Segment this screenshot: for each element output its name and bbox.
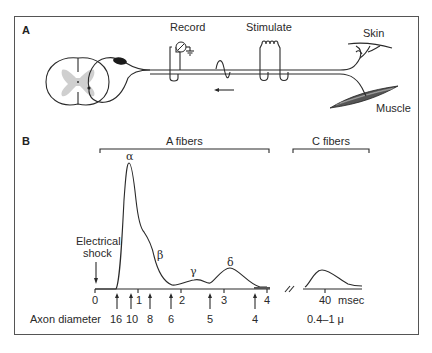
panel-a-label: A	[22, 24, 30, 36]
delta-label: δ	[227, 256, 234, 269]
tick-4: 4	[264, 294, 270, 306]
ground-icon	[186, 47, 194, 55]
c-fiber-trace	[305, 270, 362, 287]
record-electrode	[170, 42, 194, 81]
figure-frame	[15, 17, 419, 335]
nerve-conduction-figure: A Record	[0, 0, 432, 353]
action-potential-waveform-icon	[216, 61, 230, 78]
tick-40: 40	[319, 294, 331, 306]
spinal-cord-cross-section-icon	[46, 58, 109, 105]
axon-nerve-fiber	[150, 58, 364, 92]
alpha-label: α	[126, 150, 134, 163]
diameter-5: 5	[207, 313, 213, 325]
muscle-label: Muscle	[376, 102, 411, 114]
time-unit-label: msec	[338, 294, 365, 306]
record-label: Record	[170, 21, 205, 33]
shock-down-arrow-icon	[94, 262, 98, 284]
c-fibers-label: C fibers	[312, 135, 350, 147]
left-arrow-icon	[214, 88, 234, 92]
dorsal-root-ganglion-icon	[87, 56, 150, 102]
tick-0: 0	[92, 294, 98, 306]
axis-break-icon	[285, 286, 294, 292]
tick-3: 3	[221, 294, 227, 306]
diameter-10: 10	[126, 313, 138, 325]
tick-1: 1	[136, 294, 142, 306]
c-fiber-diameter: 0.4–1 μ	[307, 313, 344, 325]
tick-2: 2	[179, 294, 185, 306]
diameter-6: 6	[168, 313, 174, 325]
shock-label-line2: shock	[83, 247, 112, 259]
diameter-4: 4	[252, 313, 258, 325]
compound-action-potential-trace	[95, 163, 267, 289]
stimulator-coil-icon	[260, 41, 288, 81]
a-fibers-label: A fibers	[166, 135, 203, 147]
axon-diameter-label: Axon diameter	[30, 313, 101, 325]
c-fibers-bracket	[293, 149, 369, 153]
diameter-16: 16	[110, 313, 122, 325]
skin-label: Skin	[363, 27, 384, 39]
skin-nerve-ending-icon	[348, 43, 392, 58]
panel-b-label: B	[22, 135, 30, 147]
stimulate-label: Stimulate	[246, 21, 292, 33]
shock-label-line1: Electrical	[76, 235, 121, 247]
gamma-label: γ	[190, 265, 197, 278]
diameter-8: 8	[147, 313, 153, 325]
beta-label: β	[157, 249, 163, 262]
